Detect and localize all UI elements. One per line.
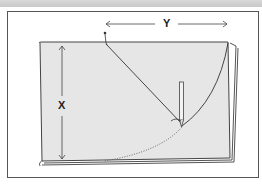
y-label: Y [163, 17, 170, 29]
fabric [39, 42, 230, 161]
x-label: X [58, 99, 65, 111]
fabric-illustration [0, 0, 262, 184]
